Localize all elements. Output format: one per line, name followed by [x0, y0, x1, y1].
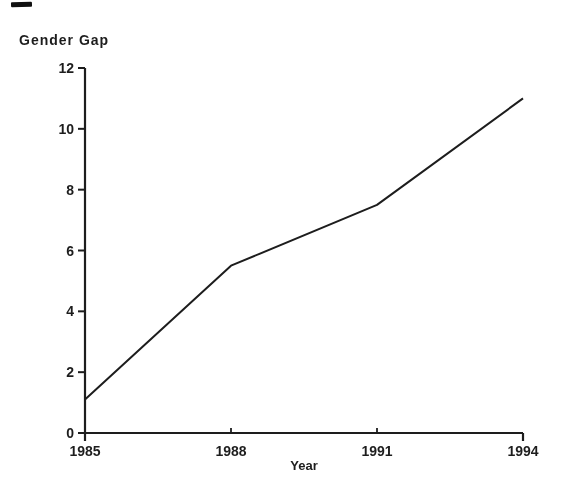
x-tick-label: 1994 — [507, 443, 538, 459]
x-tick-label: 1988 — [215, 443, 246, 459]
data-line — [85, 98, 523, 399]
x-axis-title: Year — [290, 458, 317, 473]
y-tick-label: 10 — [58, 121, 74, 137]
x-tick-label: 1991 — [361, 443, 392, 459]
y-tick-label: 8 — [66, 182, 74, 198]
y-tick-label: 4 — [66, 303, 74, 319]
y-tick-label: 12 — [58, 60, 74, 76]
chart-page: Gender Gap 0246810121985198819911994Year — [0, 0, 575, 495]
y-tick-label: 6 — [66, 243, 74, 259]
gender-gap-line-chart: 0246810121985198819911994Year — [0, 0, 575, 495]
x-tick-label: 1985 — [69, 443, 100, 459]
y-tick-label: 0 — [66, 425, 74, 441]
y-tick-label: 2 — [66, 364, 74, 380]
